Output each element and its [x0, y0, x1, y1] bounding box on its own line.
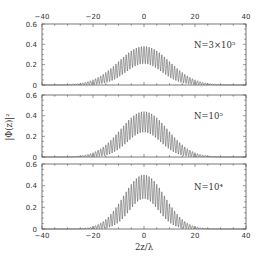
- y-tick-label: 0.4: [26, 41, 38, 49]
- bottom-x-tick-labels: −40−2002040: [35, 232, 251, 240]
- x-tick-label-top: 40: [242, 13, 251, 21]
- y-tick-label: 0.6: [26, 92, 38, 100]
- x-tick-label-top: 20: [191, 13, 200, 21]
- plot-frame: [42, 164, 246, 229]
- panel-2-annotation: N=10⁵: [194, 111, 223, 121]
- x-tick-label-bottom: 20: [191, 232, 200, 240]
- y-tick-label: 0: [33, 82, 37, 90]
- y-tick-label: 0.4: [26, 112, 38, 120]
- top-x-tick-labels: −40−2002040: [35, 13, 251, 21]
- panel-n-1e5: 00.20.40.6: [26, 92, 246, 162]
- x-tick-label-bottom: 40: [242, 232, 251, 240]
- x-tick-label-bottom: 0: [142, 232, 146, 240]
- figure: −40−2002040 00.20.40.6 00.20.40.6 00.20.…: [0, 0, 263, 258]
- y-axis-title: |Φ(z)|²: [4, 113, 15, 140]
- y-tick-label: 0.6: [26, 161, 38, 169]
- y-tick-label: 0.2: [26, 133, 37, 141]
- x-tick-label-bottom: −20: [86, 232, 101, 240]
- x-tick-label-top: 0: [142, 13, 146, 21]
- y-tick-label: 0.2: [26, 204, 37, 212]
- plot-frame: [42, 95, 246, 157]
- panel-1-annotation: N=3×10⁵: [194, 40, 236, 50]
- y-tick-label: 0.6: [26, 21, 38, 29]
- curve: [42, 46, 246, 85]
- panel-3-annotation: N=10⁴: [194, 182, 223, 192]
- x-tick-label-top: −20: [86, 13, 101, 21]
- x-axis-title: 2z/λ: [135, 242, 154, 252]
- x-tick-label-bottom: −40: [35, 232, 50, 240]
- plot-frame: [42, 24, 246, 85]
- y-tick-label: 0.4: [26, 182, 38, 190]
- y-tick-label: 0.2: [26, 61, 37, 69]
- panel-n-1e4: 00.20.40.6: [26, 161, 246, 234]
- panel-n-3e5: 00.20.40.6: [26, 21, 246, 90]
